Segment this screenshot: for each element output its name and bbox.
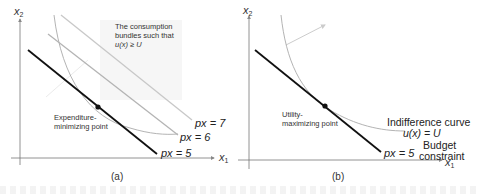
- panel-b-caption: (b): [332, 172, 344, 182]
- panel-b-preference-arrow: [286, 25, 325, 45]
- diagram-canvas: [0, 0, 478, 196]
- panel-a-x-axis-label: x1: [219, 152, 228, 164]
- panel-a-px6-label: px = 6: [180, 132, 210, 143]
- panel-b-point-label: Utility- maximizing point: [282, 110, 338, 128]
- panel-b-budget-label: Budget constraint: [419, 140, 465, 162]
- panel-b-y-axis-label: x2: [243, 5, 252, 17]
- panel-a-point-label: Expenditure- minimizing point: [54, 113, 108, 131]
- bleed-through-text: [0, 186, 478, 194]
- panel-b-curve-label: Indifference curve u(x) = U: [387, 117, 470, 139]
- panel-a-caption: (a): [111, 172, 123, 182]
- panel-b-px5-label: px = 5: [384, 148, 414, 159]
- panel-a-optimal-point: [95, 104, 100, 109]
- panel-b-budget-line: [255, 50, 381, 152]
- panel-b-plot: [238, 15, 442, 169]
- panel-b-optimal-point: [322, 103, 327, 108]
- panel-a-px5-label: px = 5: [161, 148, 191, 159]
- panel-a-region-label: The consumption bundles such that u(x) ≥…: [115, 22, 174, 49]
- panel-a-y-axis-label: x2: [14, 6, 23, 18]
- panel-a-px7-label: px = 7: [195, 118, 225, 129]
